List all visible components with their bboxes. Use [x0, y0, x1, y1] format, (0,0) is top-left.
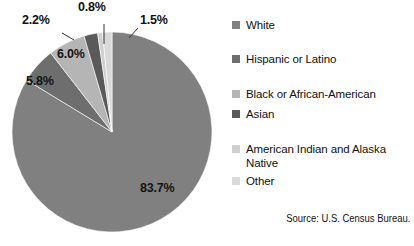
source-note: Source: U.S. Census Bureau.	[286, 212, 410, 224]
legend-swatch-icon-white	[232, 21, 240, 29]
slice-label-american-indian-and-alaska-native: 0.8%	[78, 1, 106, 14]
pie-chart: 83.7% 5.8% 6.0% 2.2% 0.8% 1.5% White His…	[0, 0, 414, 246]
legend-label-hispanic-or-latino: Hispanic or Latino	[246, 52, 336, 66]
chart-legend: White Hispanic or Latino Black or Africa…	[232, 18, 414, 188]
legend-swatch-icon-other	[232, 177, 240, 185]
pie-plot-area: 83.7% 5.8% 6.0% 2.2% 0.8% 1.5%	[0, 0, 232, 246]
legend-item-black-or-african-american[interactable]: Black or African-American	[232, 87, 414, 101]
legend-item-other[interactable]: Other	[232, 174, 414, 188]
legend-item-hispanic-or-latino[interactable]: Hispanic or Latino	[232, 52, 414, 66]
slice-label-asian: 2.2%	[22, 14, 50, 27]
legend-label-white: White	[246, 18, 275, 32]
pie-slice-group	[12, 32, 212, 232]
leader-line-asian	[62, 33, 74, 40]
legend-label-asian: Asian	[246, 107, 274, 121]
legend-label-other: Other	[246, 174, 274, 188]
legend-swatch-icon-hispanic-or-latino	[232, 55, 240, 63]
legend-swatch-icon-american-indian-and-alaska-native	[232, 145, 240, 153]
pie-svg	[0, 0, 232, 246]
slice-label-black-or-african-american: 6.0%	[57, 48, 85, 61]
legend-label-black-or-african-american: Black or African-American	[246, 87, 376, 101]
legend-swatch-icon-asian	[232, 110, 240, 118]
slice-label-hispanic: 5.8%	[26, 75, 54, 88]
legend-swatch-icon-black-or-african-american	[232, 90, 240, 98]
legend-item-white[interactable]: White	[232, 18, 414, 32]
legend-item-asian[interactable]: Asian	[232, 107, 414, 121]
slice-label-other: 1.5%	[140, 14, 168, 27]
legend-label-american-indian-and-alaska-native: American Indian and Alaska Native	[246, 142, 414, 170]
legend-item-american-indian-and-alaska-native[interactable]: American Indian and Alaska Native	[232, 142, 414, 170]
slice-label-white: 83.7%	[140, 182, 174, 195]
